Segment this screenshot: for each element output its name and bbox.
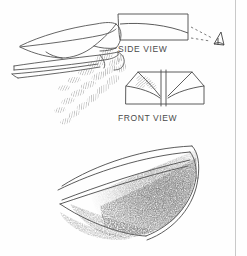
right-border-rule [235, 0, 236, 256]
front-view-label: FRONT VIEW [118, 113, 177, 123]
figure-page: SIDE VIEW FRONT VIEW [0, 0, 247, 256]
sight-line [191, 27, 212, 41]
figure-illustration [0, 0, 247, 256]
vortex-stipple [70, 150, 197, 238]
eye-icon [214, 32, 224, 45]
side-view-label: SIDE VIEW [118, 44, 167, 54]
side-view-group [118, 14, 188, 40]
front-view-group [126, 70, 204, 106]
